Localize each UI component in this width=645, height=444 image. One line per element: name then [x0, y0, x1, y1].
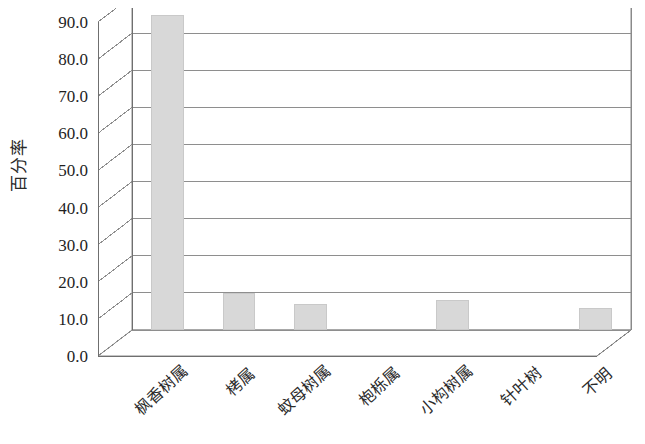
bar-slot	[508, 0, 541, 330]
y-axis-tick-label: 0.0	[36, 348, 88, 365]
bar	[151, 15, 184, 330]
y-axis-tick-label: 80.0	[36, 51, 88, 68]
bar	[579, 308, 612, 330]
bar	[223, 293, 256, 330]
bar-slot	[365, 0, 398, 330]
bar-slot	[436, 0, 469, 330]
bar	[294, 304, 327, 330]
bar-slot	[294, 0, 327, 330]
y-axis-tick-label: 90.0	[36, 14, 88, 31]
bar-slot	[151, 0, 184, 330]
y-axis-tick-label: 70.0	[36, 88, 88, 105]
plot-area	[92, 8, 637, 368]
bars-layer	[92, 8, 637, 368]
y-axis-tick-label: 10.0	[36, 310, 88, 327]
bar-slot	[223, 0, 256, 330]
bar-slot	[579, 0, 612, 330]
bar	[436, 300, 469, 330]
y-axis-tick-label: 60.0	[36, 125, 88, 142]
bar-chart: 百分率 90.080.070.060.050.040.030.020.010.0…	[0, 0, 645, 444]
y-axis-title: 百分率	[5, 120, 30, 210]
y-axis-tick-labels: 90.080.070.060.050.040.030.020.010.00.0	[36, 0, 88, 380]
y-axis-tick-label: 50.0	[36, 162, 88, 179]
y-axis-tick-label: 40.0	[36, 199, 88, 216]
y-axis-tick-label: 20.0	[36, 273, 88, 290]
y-axis-tick-label: 30.0	[36, 236, 88, 253]
